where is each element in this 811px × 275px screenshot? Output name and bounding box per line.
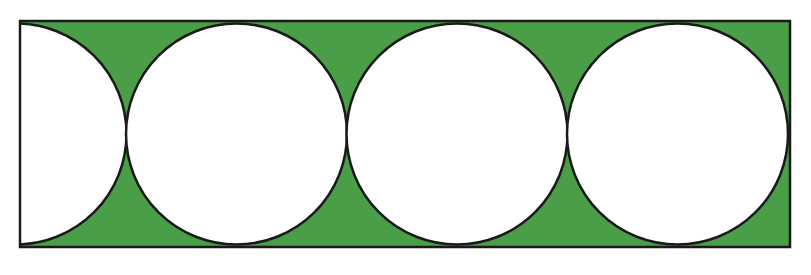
circle-2 xyxy=(347,24,568,245)
circles-in-rectangle-diagram xyxy=(0,0,811,275)
circle-1 xyxy=(126,24,347,245)
circle-3 xyxy=(567,24,788,245)
